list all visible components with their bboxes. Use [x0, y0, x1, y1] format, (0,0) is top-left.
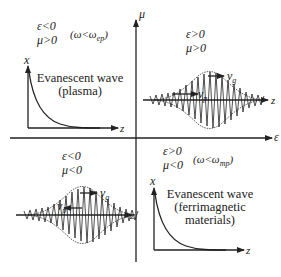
tr-mu-condition: μ>0: [186, 42, 206, 55]
bl-z-axis-label: z: [130, 209, 134, 222]
br-z-axis-label: z: [246, 244, 250, 257]
tl-mu-condition: μ>0: [37, 34, 57, 47]
br-epsilon-condition: ε>0: [163, 145, 182, 158]
tl-x-axis-label: x: [24, 54, 29, 67]
epsilon-axis-label: ε: [274, 131, 279, 144]
bl-mu-condition: μ<0: [62, 164, 82, 177]
bl-epsilon-condition: ε<0: [62, 150, 81, 163]
tl-z-axis-label: z: [120, 122, 124, 135]
tl-plot-title: Evanescent wave (plasma): [36, 72, 124, 98]
mu-axis-label: μ: [139, 8, 145, 21]
tr-z-axis-label: z: [271, 94, 275, 107]
br-frequency-condition: (ω<ωmp): [193, 153, 233, 170]
tr-group-velocity-label: vg: [227, 70, 236, 87]
tr-phase-velocity-label: vp: [198, 88, 207, 105]
tr-epsilon-condition: ε>0: [186, 28, 205, 41]
bl-group-velocity-label: vg: [100, 187, 109, 204]
tl-frequency-condition: (ω<ωep): [70, 28, 108, 45]
tl-epsilon-condition: ε<0: [37, 20, 56, 33]
backward-wave-packet: [16, 187, 138, 244]
bl-phase-velocity-label: vp: [57, 200, 66, 217]
br-plot-title: Evanescent wave (ferrimagnetic materials…: [160, 188, 260, 227]
br-mu-condition: μ<0: [163, 159, 183, 172]
br-x-axis-label: x: [150, 175, 155, 188]
